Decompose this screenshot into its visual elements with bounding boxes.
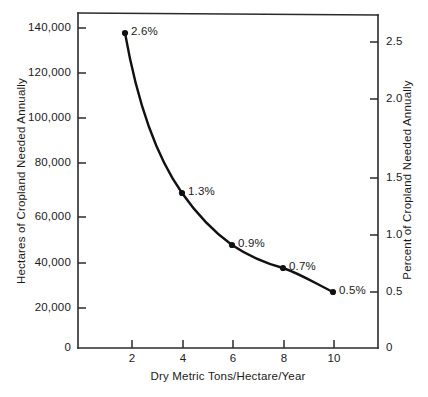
right-axis-ticks [370, 42, 378, 292]
y-axis-title-right: Percent of Cropland Needed Annually [401, 65, 413, 295]
x-axis-title: Dry Metric Tons/Hectare/Year [78, 370, 378, 382]
x-tick-label-4: 4 [168, 352, 198, 364]
x-tick-label-6: 6 [218, 352, 248, 364]
data-point-label-2: 1.3% [188, 185, 215, 197]
y2-tick-label-2-5: 2.5 [386, 35, 428, 47]
left-axis-ticks [78, 28, 86, 308]
x-tick-label-2: 2 [117, 352, 147, 364]
x-tick-label-8: 8 [269, 352, 299, 364]
axis-spines [78, 13, 378, 348]
data-point-marker [122, 30, 128, 36]
data-point-label-5: 0.5% [339, 284, 366, 296]
data-series-curve [125, 33, 333, 292]
data-point-marker [179, 190, 185, 196]
x-tick-label-10: 10 [319, 352, 349, 364]
y-axis-title-left: Hectares of Cropland Needed Annually [15, 66, 27, 296]
data-point-marker [330, 289, 336, 295]
data-point-marker [229, 242, 235, 248]
y-tick-label-0: 0 [9, 341, 71, 353]
bottom-axis-ticks [132, 340, 334, 348]
chart-plot-area [0, 0, 428, 397]
y-tick-label-140000: 140,000 [9, 21, 71, 33]
y-tick-label-20000: 20,000 [9, 301, 71, 313]
data-point-marker [280, 265, 286, 271]
y2-tick-label-0: 0 [386, 341, 428, 353]
chart-figure: 140,000 120,000 100,000 80,000 60,000 40… [0, 0, 428, 397]
data-point-markers [122, 30, 336, 295]
data-point-label-1: 2.6% [131, 25, 158, 37]
data-point-label-3: 0.9% [238, 237, 265, 249]
data-point-label-4: 0.7% [289, 260, 316, 272]
top-spine [78, 13, 378, 15]
